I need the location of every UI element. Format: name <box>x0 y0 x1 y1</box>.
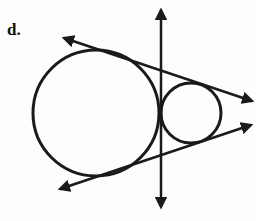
small-circle <box>161 83 221 143</box>
large-circle <box>33 50 159 176</box>
upper-external-tangent-line <box>64 38 252 101</box>
tangent-circles-diagram <box>0 0 256 221</box>
